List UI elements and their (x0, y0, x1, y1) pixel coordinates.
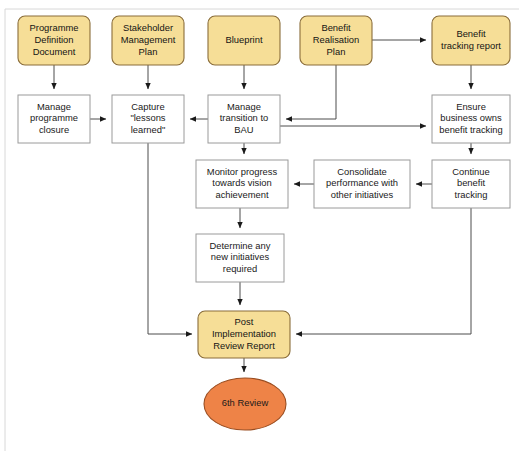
node-label-6th-review: 6th Review (222, 397, 269, 408)
node-label-stakeholder-management-plan: Stakeholder (123, 22, 173, 33)
node-programme-definition-document[interactable]: ProgrammeDefinitionDocument (18, 16, 90, 65)
node-label-continue-benefit-tracking: benefit (457, 177, 486, 188)
node-label-post-implementation-review-report: Implementation (212, 328, 276, 339)
node-label-consolidate-performance-with-other-initiatives: performance with (326, 177, 398, 188)
node-label-programme-definition-document: Definition (34, 34, 73, 45)
node-label-benefit-tracking-report: Benefit (456, 28, 486, 39)
node-label-determine-any-new-initiatives-required: new initiatives (211, 251, 270, 262)
node-label-stakeholder-management-plan: Plan (139, 46, 158, 57)
node-label-manage-transition-to-bau: transition to (220, 112, 268, 123)
node-capture-lessons-learned[interactable]: Capture"lessonslearned" (112, 95, 184, 143)
node-manage-transition-to-bau[interactable]: Managetransition toBAU (208, 95, 280, 143)
edge-brp-to-manage-transition (286, 65, 336, 119)
node-layer: ProgrammeDefinitionDocumentStakeholderMa… (18, 16, 510, 430)
flowchart-svg: ProgrammeDefinitionDocumentStakeholderMa… (0, 0, 520, 451)
node-determine-any-new-initiatives-required[interactable]: Determine anynew initiativesrequired (196, 234, 284, 282)
node-label-consolidate-performance-with-other-initiatives: Consolidate (337, 166, 387, 177)
node-label-capture-lessons-learned: "lessons (130, 112, 165, 123)
node-label-programme-definition-document: Programme (30, 22, 79, 33)
node-label-manage-programme-closure: Manage (37, 101, 71, 112)
node-label-benefit-realisation-plan: Realisation (313, 34, 359, 45)
node-label-benefit-realisation-plan: Benefit (321, 22, 351, 33)
node-label-post-implementation-review-report: Post (235, 316, 254, 327)
node-consolidate-performance-with-other-initiatives[interactable]: Consolidateperformance withother initiat… (314, 160, 410, 208)
node-blueprint[interactable]: Blueprint (208, 16, 280, 65)
node-label-capture-lessons-learned: learned" (131, 124, 166, 135)
node-label-monitor-progress-towards-vision-achievement: Monitor progress (207, 166, 278, 177)
node-label-manage-transition-to-bau: BAU (234, 124, 254, 135)
node-label-manage-programme-closure: closure (39, 124, 69, 135)
node-label-benefit-realisation-plan: Plan (327, 46, 346, 57)
edge-capture-to-pir (148, 143, 192, 334)
node-label-ensure-business-owns-benefit-tracking: benefit tracking (439, 124, 503, 135)
node-post-implementation-review-report[interactable]: PostImplementationReview Report (198, 311, 290, 358)
flowchart-canvas: ProgrammeDefinitionDocumentStakeholderMa… (0, 0, 520, 451)
node-label-consolidate-performance-with-other-initiatives: other initiatives (331, 189, 394, 200)
node-benefit-realisation-plan[interactable]: BenefitRealisationPlan (300, 16, 372, 65)
node-label-monitor-progress-towards-vision-achievement: towards vision (212, 177, 271, 188)
node-label-ensure-business-owns-benefit-tracking: business owns (440, 112, 502, 123)
node-label-continue-benefit-tracking: tracking (455, 189, 488, 200)
node-monitor-progress-towards-vision-achievement[interactable]: Monitor progresstowards visionachievemen… (196, 160, 288, 208)
edge-continue-to-pir (296, 208, 471, 334)
node-label-stakeholder-management-plan: Management (121, 34, 176, 45)
node-label-manage-transition-to-bau: Manage (227, 101, 261, 112)
node-label-blueprint: Blueprint (225, 34, 262, 45)
node-label-capture-lessons-learned: Capture (131, 101, 164, 112)
node-manage-programme-closure[interactable]: Manageprogrammeclosure (18, 95, 90, 143)
node-6th-review[interactable]: 6th Review (204, 378, 286, 430)
node-label-benefit-tracking-report: tracking report (441, 40, 501, 51)
node-ensure-business-owns-benefit-tracking[interactable]: Ensurebusiness ownsbenefit tracking (432, 95, 510, 143)
node-label-determine-any-new-initiatives-required: Determine any (210, 240, 271, 251)
node-label-post-implementation-review-report: Review Report (213, 340, 275, 351)
node-stakeholder-management-plan[interactable]: StakeholderManagementPlan (112, 16, 184, 65)
node-label-monitor-progress-towards-vision-achievement: achievement (215, 189, 269, 200)
node-label-manage-programme-closure: programme (30, 112, 78, 123)
node-continue-benefit-tracking[interactable]: Continuebenefittracking (432, 160, 510, 208)
node-label-ensure-business-owns-benefit-tracking: Ensure (456, 101, 486, 112)
node-benefit-tracking-report[interactable]: Benefittracking report (432, 16, 510, 65)
node-label-continue-benefit-tracking: Continue (452, 166, 490, 177)
node-label-determine-any-new-initiatives-required: required (223, 263, 257, 274)
node-label-programme-definition-document: Document (33, 46, 76, 57)
